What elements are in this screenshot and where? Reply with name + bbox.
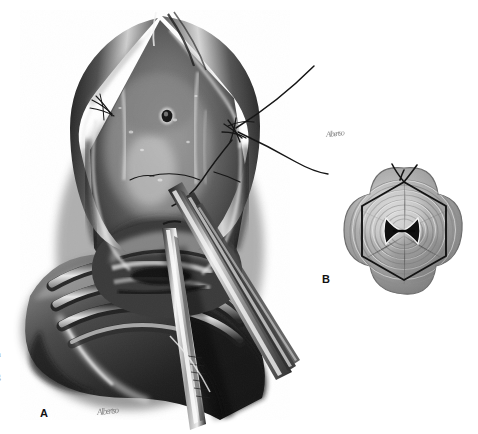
panel-b-illustration [340,160,470,310]
margin-line-4: g [0,371,11,382]
medical-illustration-figure: A B Albertso Albertso t n f g [0,0,478,434]
panel-a-illustration [20,10,328,430]
panel-label-a: A [40,407,48,419]
panel-label-b: B [322,273,330,285]
illustration-canvas [0,0,478,434]
clipped-margin-text: t n f g [0,338,11,382]
margin-line-2: n [0,349,11,360]
margin-line-3: f [0,360,11,371]
margin-line-1: t [0,338,11,349]
panel-a-grain [20,10,290,420]
artist-signature-panel-b: Albertso [326,128,344,139]
